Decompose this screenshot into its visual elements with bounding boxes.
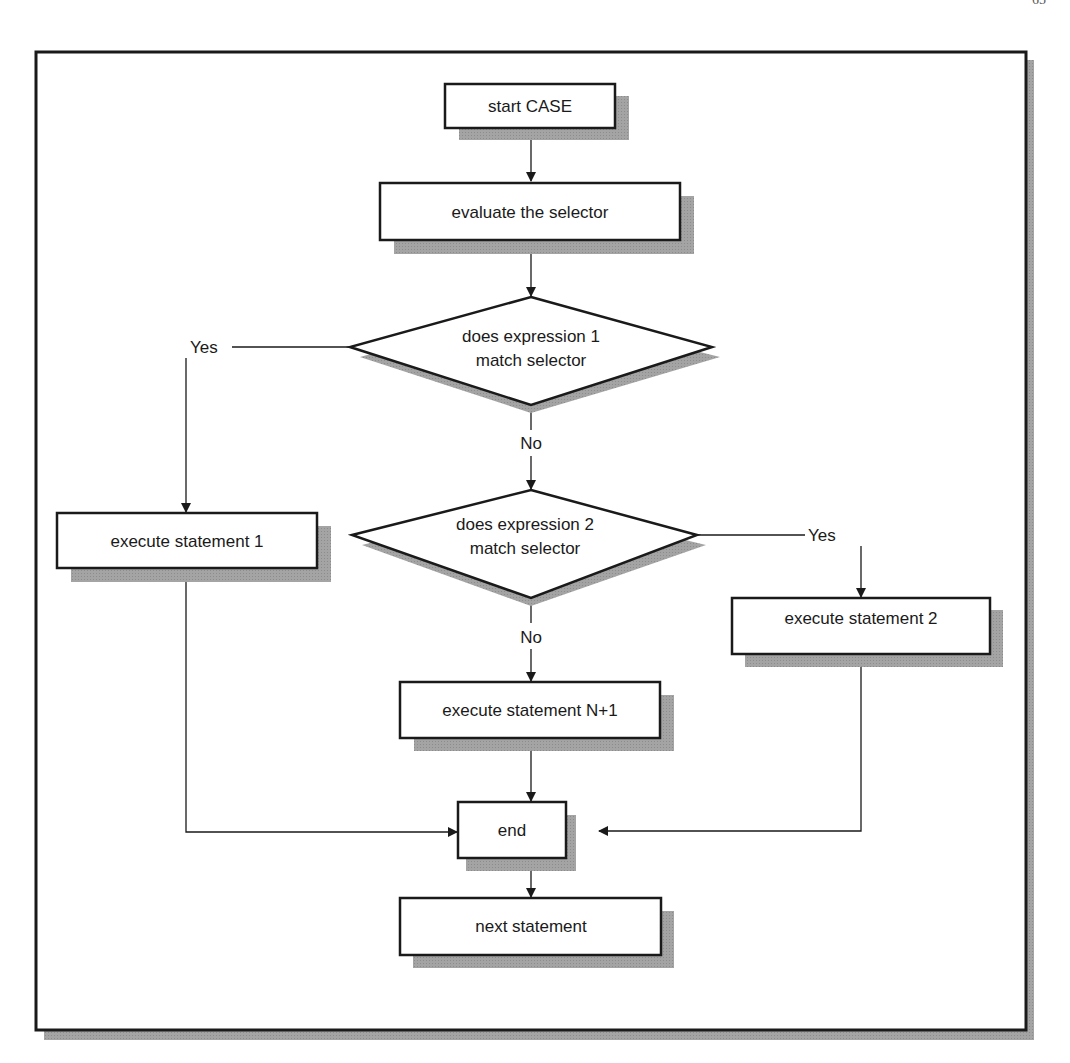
node-start-label: start CASE [488, 97, 572, 116]
node-decision2-line2: match selector [470, 539, 581, 558]
node-decision1-line1: does expression 1 [462, 327, 600, 346]
label-d2-yes: Yes [808, 526, 836, 545]
node-stmtN1-label: execute statement N+1 [442, 701, 617, 720]
node-stmt1: execute statement 1 [57, 513, 331, 582]
node-stmt1-label: execute statement 1 [110, 532, 263, 551]
node-stmt2: execute statement 2 [732, 598, 1003, 667]
label-d1-yes: Yes [190, 338, 218, 357]
node-end-label: end [498, 821, 526, 840]
node-stmt2-label: execute statement 2 [784, 609, 937, 628]
node-end: end [458, 802, 576, 871]
node-stmtN1: execute statement N+1 [400, 682, 674, 751]
node-evaluate-label: evaluate the selector [452, 203, 609, 222]
node-next: next statement [400, 898, 674, 968]
node-decision2-line1: does expression 2 [456, 515, 594, 534]
label-d1-no: No [520, 434, 542, 453]
flowchart: start CASE evaluate the selector does ex… [0, 0, 1070, 1063]
node-start: start CASE [445, 84, 629, 140]
node-next-label: next statement [475, 917, 587, 936]
node-decision1-line2: match selector [476, 351, 587, 370]
node-evaluate: evaluate the selector [380, 183, 694, 254]
label-d2-no: No [520, 628, 542, 647]
